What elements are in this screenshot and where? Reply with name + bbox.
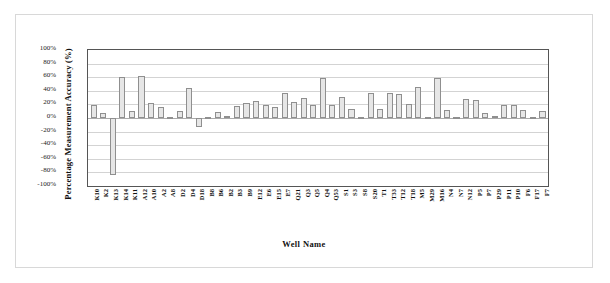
bar-slot xyxy=(223,51,233,185)
x-tick-slot: E6 xyxy=(260,189,270,241)
bar xyxy=(148,103,154,118)
bar xyxy=(205,117,211,119)
bar xyxy=(291,102,297,118)
plot-area xyxy=(87,49,549,187)
bar xyxy=(539,111,545,118)
bar xyxy=(224,116,230,118)
bar-slot xyxy=(99,51,109,185)
bar-slot xyxy=(289,51,299,185)
x-tick-slot: D2 xyxy=(174,189,184,241)
bar-slot xyxy=(184,51,194,185)
y-tick-label: 20% xyxy=(0,99,56,106)
bar xyxy=(138,76,144,118)
x-tick-slot: Q53 xyxy=(327,189,337,241)
x-tick-slot: P7 xyxy=(481,189,491,241)
bar-slot xyxy=(232,51,242,185)
x-tick-slot: B6 xyxy=(213,189,223,241)
bar xyxy=(387,93,393,118)
chart-figure: Percentage Measurement Accuracy (%) 100%… xyxy=(15,14,593,268)
bar xyxy=(310,105,316,118)
x-tick-slot: F7 xyxy=(538,189,548,241)
bar xyxy=(320,78,326,118)
bar-slot xyxy=(118,51,128,185)
bar xyxy=(100,113,106,118)
x-tick-slot: Q5 xyxy=(308,189,318,241)
bar xyxy=(453,117,459,119)
bar-slot xyxy=(414,51,424,185)
x-tick-slot: D18 xyxy=(193,189,203,241)
bar-slot xyxy=(309,51,319,185)
x-tick-slot: D4 xyxy=(184,189,194,241)
y-tick-label: -100% xyxy=(0,181,56,188)
y-tick-label: -60% xyxy=(0,154,56,161)
bar-slot xyxy=(500,51,510,185)
x-tick-slot: S3 xyxy=(347,189,357,241)
bar-slot xyxy=(156,51,166,185)
bar xyxy=(501,105,507,118)
bar-slot xyxy=(519,51,529,185)
bar-series xyxy=(89,51,547,185)
y-axis-title: Percentage Measurement Accuracy (%) xyxy=(63,34,73,214)
x-tick-slot: A8 xyxy=(165,189,175,241)
bar-slot xyxy=(490,51,500,185)
x-tick-slot: P29 xyxy=(490,189,500,241)
bar xyxy=(463,99,469,118)
bar-slot xyxy=(452,51,462,185)
bar-slot xyxy=(270,51,280,185)
bar xyxy=(301,98,307,118)
bar xyxy=(368,93,374,118)
x-tick-slot: K10 xyxy=(88,189,98,241)
bar-slot xyxy=(204,51,214,185)
y-tick-label: -20% xyxy=(0,127,56,134)
x-tick-slot: T12 xyxy=(395,189,405,241)
bar xyxy=(358,117,364,119)
x-tick-slot: F6 xyxy=(519,189,529,241)
x-axis-title: Well Name xyxy=(16,239,592,249)
bar-slot xyxy=(328,51,338,185)
bar xyxy=(196,118,202,127)
bar xyxy=(243,103,249,118)
bar-slot xyxy=(280,51,290,185)
x-tick-slot: B8 xyxy=(203,189,213,241)
bar xyxy=(329,105,335,118)
x-tick-slot: E12 xyxy=(251,189,261,241)
x-tick-slot: M16 xyxy=(433,189,443,241)
x-tick-slot: Q4 xyxy=(318,189,328,241)
bar xyxy=(91,105,97,118)
bar xyxy=(415,87,421,118)
x-tick-slot: E15 xyxy=(270,189,280,241)
x-tick-slot: B3 xyxy=(232,189,242,241)
bar xyxy=(253,101,259,118)
bar-slot xyxy=(337,51,347,185)
x-tick-slot: K14 xyxy=(117,189,127,241)
bar-slot xyxy=(165,51,175,185)
x-tick-slot: N7 xyxy=(452,189,462,241)
y-tick-label: 60% xyxy=(0,72,56,79)
bar xyxy=(263,105,269,118)
x-tick-slot: Q3 xyxy=(299,189,309,241)
bar-slot xyxy=(538,51,548,185)
x-tick-slot: A2 xyxy=(155,189,165,241)
y-tick-label: 0% xyxy=(0,113,56,120)
bar-slot xyxy=(251,51,261,185)
y-tick-label: 40% xyxy=(0,86,56,93)
bar xyxy=(406,104,412,118)
bar xyxy=(396,94,402,118)
bar xyxy=(119,77,125,118)
x-tick-slot: P10 xyxy=(509,189,519,241)
bar-slot xyxy=(261,51,271,185)
bar-slot xyxy=(194,51,204,185)
bar xyxy=(425,117,431,119)
bar xyxy=(158,107,164,118)
bar xyxy=(186,88,192,118)
bar xyxy=(492,116,498,118)
x-tick-slot: F17 xyxy=(529,189,539,241)
x-tick-slot: S20 xyxy=(366,189,376,241)
x-tick-slot: B2 xyxy=(222,189,232,241)
y-tick-label: -80% xyxy=(0,167,56,174)
bar xyxy=(530,117,536,119)
x-tick-slot: M29 xyxy=(423,189,433,241)
x-axis-tick-labels: K10K2K13K14K11A12A10A2A8D2D4D18B8B6B2B3B… xyxy=(88,189,548,241)
bar-slot xyxy=(433,51,443,185)
bar xyxy=(339,97,345,118)
